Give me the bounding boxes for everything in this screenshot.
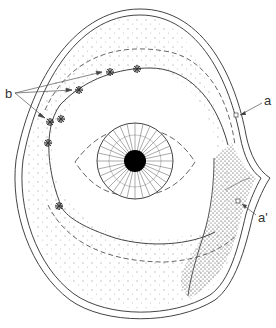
eye-diagram: b a a' bbox=[0, 0, 276, 328]
label-b: b bbox=[5, 86, 12, 101]
diagram-canvas: b a a' bbox=[0, 0, 276, 328]
label-a-group: a bbox=[234, 93, 272, 117]
pupil bbox=[124, 150, 146, 172]
label-a: a bbox=[264, 93, 272, 108]
label-a-prime: a' bbox=[258, 210, 268, 225]
iris bbox=[75, 123, 195, 199]
